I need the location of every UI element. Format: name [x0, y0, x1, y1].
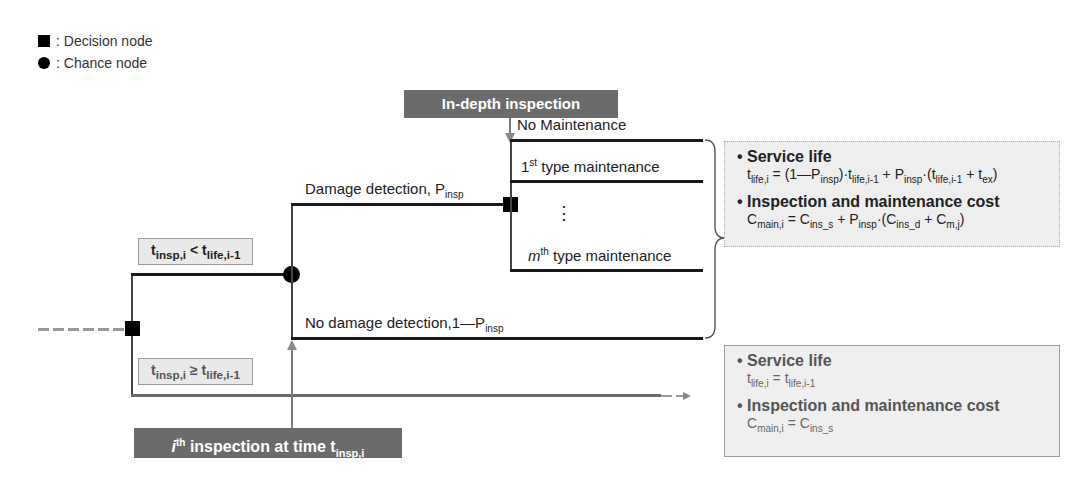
service-life-title: • Service life	[737, 148, 1047, 166]
cond-sub: life,i-1	[206, 368, 240, 381]
branch-no-inspection-dash	[661, 395, 683, 397]
label-sup: th	[541, 246, 549, 257]
cond-sub: life,i-1	[207, 248, 241, 261]
service-life-formula: tlife,i = (1—Pinsp)·tlife,i-1 + Pinsp·(t…	[747, 166, 1047, 185]
chance-branch-vertical	[291, 204, 293, 338]
mth-type-maintenance-line	[510, 269, 703, 272]
cond-sub: insp,i	[156, 248, 186, 261]
ith-text: inspection at time t	[185, 438, 335, 455]
label-sub: insp	[485, 323, 503, 334]
label-sub: insp	[445, 189, 463, 200]
legend-chance-label: : Chance node	[56, 55, 147, 71]
first-type-maintenance-line	[510, 180, 703, 183]
branch-inspect-line	[131, 273, 291, 276]
condition-ge-box: tinsp,i ≥ tlife,i-1	[138, 358, 253, 385]
chance-node-icon	[38, 57, 50, 69]
cond-op: ≥ t	[186, 362, 206, 378]
decision-node-icon	[38, 35, 50, 47]
arrow-right-icon	[683, 392, 691, 400]
cost-title: • Inspection and maintenance cost	[737, 193, 1047, 211]
condition-lt-box: tinsp,i < tlife,i-1	[138, 238, 253, 265]
cond-sub: insp,i	[156, 368, 186, 381]
cost-title: • Inspection and maintenance cost	[737, 397, 1047, 415]
no-maintenance-label: No Maintenance	[517, 116, 626, 133]
first-type-maintenance-label: 1st type maintenance	[521, 157, 660, 175]
arrow-up-icon	[287, 340, 297, 350]
decision-node-icon	[125, 321, 140, 336]
no-maintenance-line	[510, 139, 703, 142]
label-text: type maintenance	[549, 247, 672, 264]
ith-sub: insp,i	[336, 447, 365, 459]
maintenance-branch-vertical	[510, 140, 512, 270]
ith-inspection-connector	[291, 348, 293, 428]
legend-chance-node: : Chance node	[38, 55, 147, 71]
incoming-dashed-line	[38, 328, 128, 331]
branch-no-inspection-line	[131, 394, 661, 397]
label-text: type maintenance	[537, 158, 660, 175]
result-box-not-inspected: • Service life tlife,i = tlife,i-1 • Ins…	[724, 345, 1060, 457]
legend-decision-node: : Decision node	[38, 33, 153, 49]
cost-formula: Cmain,i = Cins_s + Pinsp·(Cins_d + Cm,j)	[747, 211, 1047, 230]
label-text: No damage detection,1—P	[305, 314, 485, 331]
ith-inspection-box: ith inspection at time tinsp,i	[134, 428, 402, 458]
damage-detection-line	[291, 203, 511, 206]
label-text: Damage detection, P	[305, 180, 445, 197]
legend-decision-label: : Decision node	[56, 33, 153, 49]
damage-detection-label: Damage detection, Pinsp	[305, 180, 463, 200]
ellipsis: ⋮	[555, 202, 573, 224]
cost-formula: Cmain,i = Cins_s	[747, 415, 1047, 434]
service-life-title: • Service life	[737, 352, 1047, 370]
service-life-formula: tlife,i = tlife,i-1	[747, 370, 1047, 389]
cond-op: < t	[186, 242, 207, 258]
label-sup: st	[529, 157, 537, 168]
result-box-inspected: • Service life tlife,i = (1—Pinsp)·tlife…	[724, 141, 1060, 247]
no-damage-detection-line	[291, 337, 703, 340]
in-depth-inspection-box: In-depth inspection	[404, 90, 618, 118]
label-m: m	[528, 247, 541, 264]
no-damage-detection-label: No damage detection,1—Pinsp	[305, 314, 503, 334]
mth-type-maintenance-label: mth type maintenance	[528, 246, 671, 264]
